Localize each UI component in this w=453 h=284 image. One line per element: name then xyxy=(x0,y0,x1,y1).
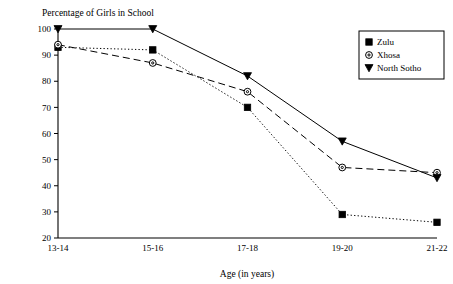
x-tick-label: 19-20 xyxy=(332,243,353,253)
y-tick-label: 20 xyxy=(42,233,52,243)
y-tick-label: 50 xyxy=(42,155,52,165)
y-tick-label: 60 xyxy=(42,129,52,139)
data-point xyxy=(244,73,252,80)
legend-marker-center xyxy=(368,54,370,56)
x-axis-title: Age (in years) xyxy=(220,269,274,280)
chart-legend: ZuluXhosaNorth Sotho xyxy=(359,31,444,79)
x-tick-label: 13-14 xyxy=(48,243,69,253)
y-tick-label: 80 xyxy=(42,76,52,86)
line-chart: Percentage of Girls in School 2030405060… xyxy=(0,0,453,284)
data-point-center xyxy=(57,44,59,46)
y-tick-label: 100 xyxy=(38,24,52,34)
data-point xyxy=(150,47,156,53)
chart-title: Percentage of Girls in School xyxy=(42,8,154,18)
data-point xyxy=(434,219,440,225)
legend-marker xyxy=(366,39,372,45)
y-tick-label: 90 xyxy=(42,50,52,60)
data-point xyxy=(339,211,345,217)
legend-label: Xhosa xyxy=(377,50,400,60)
y-tick-label: 40 xyxy=(42,181,52,191)
data-point xyxy=(244,104,250,110)
data-point-center xyxy=(436,172,438,174)
y-tick-label: 30 xyxy=(42,207,52,217)
x-axis: 13-1415-1617-1819-2021-22 xyxy=(48,243,448,253)
data-point-center xyxy=(246,91,248,93)
data-point xyxy=(338,138,346,145)
data-point-center xyxy=(152,62,154,64)
x-tick-label: 15-16 xyxy=(142,243,163,253)
chart-figure: Percentage of Girls in School 2030405060… xyxy=(0,0,453,284)
data-point xyxy=(433,175,441,182)
legend-label: North Sotho xyxy=(377,63,422,73)
y-tick-label: 70 xyxy=(42,103,52,113)
legend-label: Zulu xyxy=(377,37,394,47)
x-tick-label: 21-22 xyxy=(427,243,448,253)
data-point-center xyxy=(341,166,343,168)
y-axis: 2030405060708090100 xyxy=(38,24,59,243)
x-tick-label: 17-18 xyxy=(237,243,258,253)
